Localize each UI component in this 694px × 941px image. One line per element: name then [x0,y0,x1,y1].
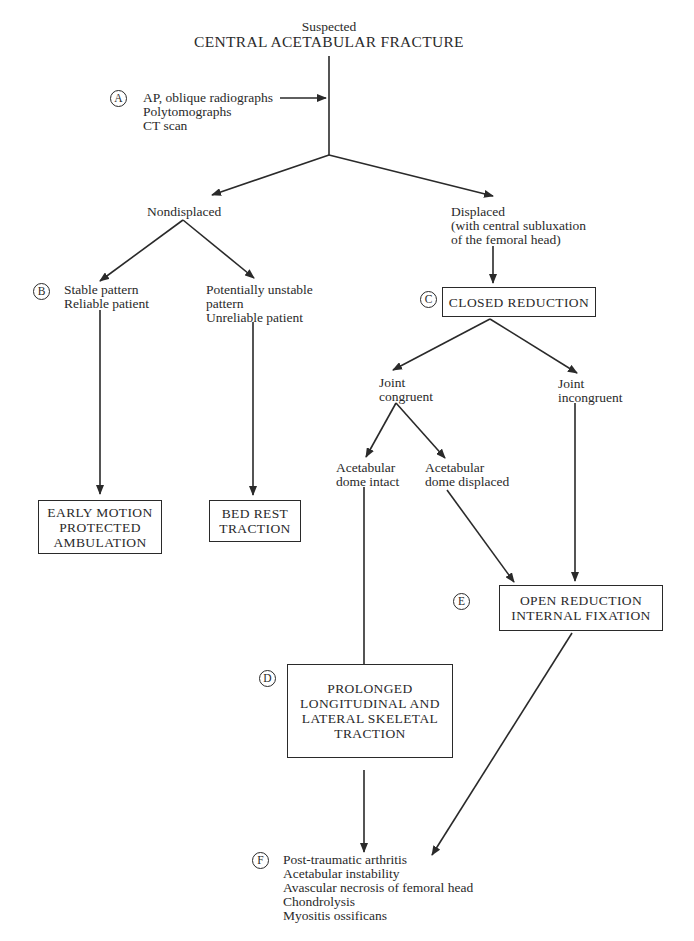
title-central-acetabular-fracture: CENTRAL ACETABULAR FRACTURE [179,35,479,49]
early-motion-box: EARLY MOTION PROTECTED AMBULATION [38,500,162,554]
title-suspected: Suspected [229,20,429,34]
step-label-b: B [33,283,50,300]
dome-displaced-node: Acetabular dome displaced [425,461,509,489]
unstable-pattern-node: Potentially unstable pattern Unreliable … [206,283,313,325]
stable-pattern-node: Stable pattern Reliable patient [64,283,149,311]
nondisplaced-node: Nondisplaced [147,205,221,219]
orif-box: OPEN REDUCTION INTERNAL FIXATION [499,585,663,631]
step-label-d: D [259,670,276,687]
bed-rest-traction-box: BED REST TRACTION [209,500,301,542]
imaging-studies: AP, oblique radiographs Polytomographs C… [143,91,273,133]
step-label-a: A [110,90,127,107]
step-label-e: E [453,593,470,610]
prolonged-traction-box: PROLONGED LONGITUDINAL AND LATERAL SKELE… [287,664,453,758]
joint-congruent-node: Joint congruent [379,376,433,404]
dome-intact-node: Acetabular dome intact [336,461,399,489]
closed-reduction-box: CLOSED REDUCTION [442,287,596,317]
displaced-node: Displaced (with central subluxation of t… [451,205,586,247]
joint-incongruent-node: Joint incongruent [558,377,622,405]
step-label-f: F [252,852,269,869]
complications-list: Post-traumatic arthritis Acetabular inst… [283,853,473,923]
step-label-c: C [420,291,437,308]
